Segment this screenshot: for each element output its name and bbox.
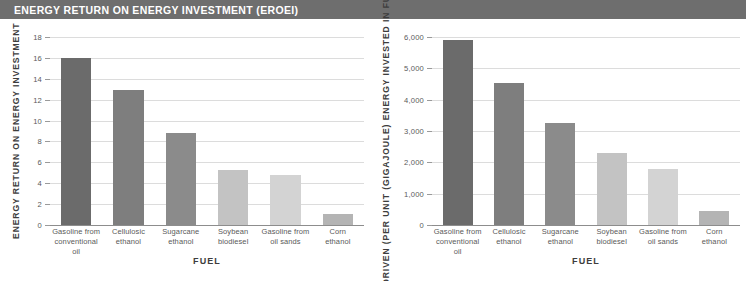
plot-area-left: 024681012141618	[50, 37, 364, 225]
bar-series-right	[432, 37, 740, 225]
bar	[218, 170, 248, 225]
bar-series-left	[50, 37, 364, 225]
bar	[443, 40, 473, 225]
y-axis-tick-label: 4,000	[404, 95, 424, 104]
bar-slot	[259, 37, 311, 225]
x-axis-title-left: FUEL	[50, 256, 364, 266]
x-axis-category-label: Cornethanol	[312, 227, 364, 257]
bar	[61, 58, 91, 225]
banner-title: ENERGY RETURN ON ENERGY INVESTMENT (EROE…	[0, 4, 298, 16]
bar	[113, 90, 143, 225]
y-axis-tick	[45, 225, 50, 226]
bar-slot	[483, 37, 534, 225]
bar	[648, 169, 678, 225]
bar-slot	[586, 37, 637, 225]
bar	[166, 133, 196, 225]
bar-slot	[312, 37, 364, 225]
y-axis-tick-label: 0	[420, 221, 424, 230]
bar-slot	[102, 37, 154, 225]
y-axis-title-right: KILOMETERS DRIVEN (PER UNIT (GIGAJOULE) …	[374, 33, 400, 229]
y-axis-tick-label: 6	[38, 158, 42, 167]
chart-panel-right: KILOMETERS DRIVEN (PER UNIT (GIGAJOULE) …	[372, 33, 746, 281]
bar	[597, 153, 627, 225]
y-axis-tick-label: 12	[33, 95, 42, 104]
bar-slot	[637, 37, 688, 225]
bar	[545, 123, 575, 225]
bar-slot	[207, 37, 259, 225]
bar-slot	[155, 37, 207, 225]
x-axis-category-label: Sugarcaneethanol	[535, 227, 586, 257]
x-axis-category-label: Soybeanbiodiesel	[586, 227, 637, 257]
y-axis-tick	[427, 225, 432, 226]
y-axis-tick-label: 16	[33, 53, 42, 62]
bar-slot	[50, 37, 102, 225]
y-axis-tick-label: 4	[38, 179, 42, 188]
x-axis-category-label: Sugarcaneethanol	[155, 227, 207, 257]
gridline	[50, 225, 364, 226]
y-axis-tick-label: 2,000	[404, 158, 424, 167]
x-axis-title-right: FUEL	[432, 256, 740, 266]
y-axis-tick-label: 6,000	[404, 33, 424, 42]
y-axis-tick-label: 8	[38, 137, 42, 146]
x-axis-category-label: Cornethanol	[689, 227, 740, 257]
bar-slot	[689, 37, 740, 225]
bar-slot	[535, 37, 586, 225]
x-axis-category-label: Gasoline fromoil sands	[637, 227, 688, 257]
x-axis-category-label: Cellulosicethanol	[102, 227, 154, 257]
figure-body: ENERGY RETURN ON ENERGY INVESTMENT 02468…	[0, 19, 746, 281]
bar	[494, 83, 524, 225]
y-axis-tick-label: 14	[33, 74, 42, 83]
x-axis-category-label: Cellulosicethanol	[483, 227, 534, 257]
gridline	[432, 225, 740, 226]
y-axis-tick-label: 18	[33, 33, 42, 42]
x-axis-category-label: Gasoline fromconventional oil	[432, 227, 483, 257]
y-axis-tick-label: 1,000	[404, 189, 424, 198]
y-axis-tick-label: 5,000	[404, 64, 424, 73]
x-axis-category-label: Gasoline fromoil sands	[259, 227, 311, 257]
x-axis-labels-right: Gasoline fromconventional oilCellulosice…	[432, 227, 740, 257]
plot-area-right: 01,0002,0003,0004,0005,0006,000	[432, 37, 740, 225]
bar	[323, 214, 353, 225]
section-header-banner: ENERGY RETURN ON ENERGY INVESTMENT (EROE…	[0, 0, 746, 19]
x-axis-category-label: Gasoline fromconventional oil	[50, 227, 102, 257]
y-axis-tick-label: 2	[38, 200, 42, 209]
chart-panel-left: ENERGY RETURN ON ENERGY INVESTMENT 02468…	[4, 33, 370, 281]
y-axis-title-left: ENERGY RETURN ON ENERGY INVESTMENT	[10, 33, 24, 229]
bar	[270, 175, 300, 225]
bar-slot	[432, 37, 483, 225]
x-axis-labels-left: Gasoline fromconventional oilCellulosice…	[50, 227, 364, 257]
y-axis-tick-label: 3,000	[404, 127, 424, 136]
bar	[699, 211, 729, 225]
x-axis-category-label: Soybeanbiodiesel	[207, 227, 259, 257]
y-axis-tick-label: 0	[38, 221, 42, 230]
y-axis-tick-label: 10	[33, 116, 42, 125]
